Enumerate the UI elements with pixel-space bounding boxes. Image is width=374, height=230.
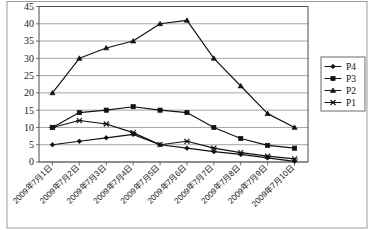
line-chart: 051015202530354045 2009年7月1日2009年7月2日200…: [0, 0, 374, 230]
data-point-marker: [104, 108, 108, 112]
y-tick-label: 40: [24, 18, 34, 29]
y-tick-label: 0: [29, 156, 34, 167]
data-point-marker: [158, 108, 162, 112]
legend-label: P2: [346, 86, 356, 96]
legend-label: P1: [346, 98, 356, 108]
data-point-marker: [266, 143, 270, 147]
data-point-marker: [77, 110, 81, 114]
y-tick-label: 30: [24, 53, 34, 64]
y-tick-label: 45: [24, 1, 34, 12]
data-point-marker: [185, 110, 189, 114]
data-point-marker: [131, 105, 135, 109]
data-point-marker: [212, 125, 216, 129]
legend-label: P3: [346, 74, 356, 84]
y-tick-label: 25: [24, 70, 34, 81]
data-point-marker: [239, 136, 243, 140]
y-tick-label: 10: [24, 122, 34, 133]
y-tick-label: 20: [24, 87, 34, 98]
chart-canvas: 051015202530354045 2009年7月1日2009年7月2日200…: [0, 0, 374, 230]
data-point-marker: [292, 146, 296, 150]
y-tick-label: 35: [24, 35, 34, 46]
data-point-marker: [331, 76, 335, 80]
y-tick-label: 5: [29, 139, 34, 150]
chart-legend: P4P3P2P1: [321, 57, 365, 111]
legend-label: P4: [346, 62, 356, 72]
y-tick-label: 15: [24, 105, 34, 116]
